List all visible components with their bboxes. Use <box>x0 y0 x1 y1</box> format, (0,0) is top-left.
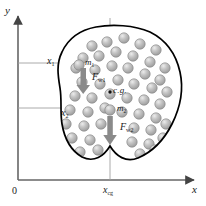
particle <box>85 135 95 145</box>
particle <box>96 119 106 129</box>
particle <box>140 69 150 79</box>
x1-label: x1 <box>47 56 54 66</box>
particle <box>94 51 104 61</box>
particle <box>146 125 156 135</box>
x2-label: x2 <box>61 108 68 118</box>
particle <box>155 75 165 85</box>
cg-diagram: y x 0 xcg x1 x2 m1 m2 Fw1 Fw2 c.g. <box>0 0 206 206</box>
x-cg-tick-label: xcg <box>103 185 113 195</box>
particle <box>147 83 157 93</box>
m2-subscript: 2 <box>124 108 127 114</box>
particle <box>111 47 121 57</box>
particle <box>129 79 139 89</box>
particle <box>160 63 170 73</box>
particle <box>83 107 93 117</box>
particle <box>162 87 172 97</box>
particle <box>123 63 133 73</box>
particle <box>87 93 97 103</box>
particle <box>79 121 89 131</box>
mass-m2-label: m2 <box>117 104 126 113</box>
particle <box>151 113 161 123</box>
fw1-subscript: w1 <box>98 77 105 83</box>
particle <box>70 91 80 101</box>
cg-point <box>108 90 111 93</box>
x-cg-subscript: cg <box>107 190 113 196</box>
particle <box>93 145 103 155</box>
particle <box>151 45 161 55</box>
particle <box>87 41 97 51</box>
particle <box>107 61 117 71</box>
particle <box>134 109 144 119</box>
particle <box>135 39 145 49</box>
particle <box>145 57 155 67</box>
particle <box>119 33 129 43</box>
force-fw2-label: Fw2 <box>120 122 133 132</box>
particle <box>127 137 137 147</box>
y-axis-label: y <box>5 5 10 16</box>
force-fw1-label: Fw1 <box>92 72 105 82</box>
mass-m2-marker <box>105 105 115 115</box>
particle <box>102 37 112 47</box>
fw2-subscript: w2 <box>126 127 133 133</box>
mass-m1-label: m1 <box>85 58 94 67</box>
particle <box>155 99 165 109</box>
particle <box>128 51 138 61</box>
diagram-canvas <box>0 0 206 206</box>
m1-subscript: 1 <box>92 62 95 68</box>
cg-label: c.g. <box>113 86 127 95</box>
particle <box>139 95 149 105</box>
origin-label: 0 <box>12 186 17 196</box>
particle <box>113 75 123 85</box>
x-axis-label: x <box>192 184 197 195</box>
